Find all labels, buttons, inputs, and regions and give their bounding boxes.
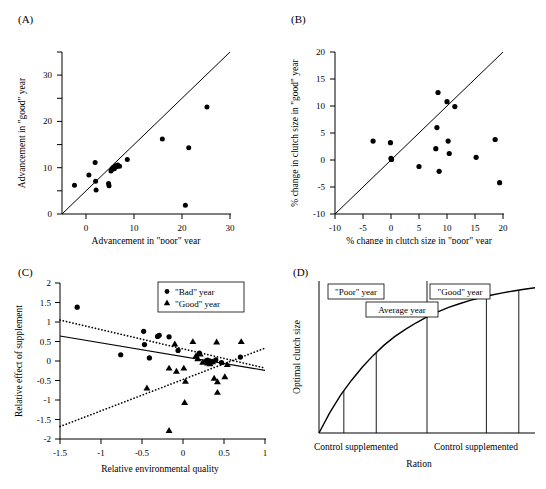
data-point-triangle — [221, 373, 228, 379]
data-point — [416, 164, 421, 169]
data-point — [72, 183, 77, 188]
data-point — [107, 183, 112, 188]
panel-a-identity-line — [62, 52, 230, 214]
fit-line-bad-year — [60, 320, 265, 368]
data-point — [117, 164, 122, 169]
panel-a-ytick-0: 0 — [48, 209, 53, 219]
panel-a-y-axis-title: Advancement in "good" year — [17, 77, 27, 188]
panel-b-y-ticks — [330, 52, 335, 214]
panel-c-ytick--2.0: -2 — [44, 434, 52, 444]
data-point — [493, 137, 498, 142]
panel-d-box-average-label: Average year — [378, 305, 426, 315]
panel-a-ytick-30: 30 — [43, 70, 53, 80]
data-point — [147, 355, 152, 360]
data-point — [175, 348, 180, 353]
data-point — [160, 137, 165, 142]
panel-c-ytick-0.0: 0 — [47, 356, 52, 366]
panel-b-xtick--10: -10 — [329, 223, 341, 233]
data-point-triangle — [180, 365, 187, 371]
fit-line-good-year — [60, 348, 265, 426]
panel-c-ytick-2.0: 2 — [47, 278, 52, 288]
data-point — [370, 139, 375, 144]
panel-a-xtick-0: 0 — [84, 223, 89, 233]
data-point — [447, 151, 452, 156]
panel-d-x-axis-title: Ration — [406, 459, 432, 469]
panel-b-xtick-10: 10 — [443, 223, 453, 233]
data-point — [118, 352, 123, 357]
panel-a-xtick-20: 20 — [178, 223, 188, 233]
data-point-triangle — [143, 385, 150, 391]
panel-c: (C) 2 1.5 1 0.5 0 -0.5 -1 -1.5 — [0, 245, 273, 489]
panel-c-x-axis-title: Relative environmental quality — [101, 464, 219, 474]
panel-d-group-label-right: Control supplemented — [434, 442, 518, 452]
panel-c-xtick-0.5: 0.5 — [218, 448, 230, 458]
panel-b-x-ticks — [335, 214, 503, 219]
panel-a-x-axis-title: Advancement in "poor" year — [92, 236, 202, 244]
panel-c-xtick--1.0: -1 — [97, 448, 105, 458]
panel-c-ytick-1.0: 1 — [47, 317, 52, 327]
data-point-triangle — [166, 427, 173, 433]
data-point — [434, 125, 439, 130]
figure-container: (A) 0 10 20 30 — [0, 0, 546, 489]
panel-c-points — [75, 305, 245, 433]
data-point-triangle — [189, 338, 196, 344]
panel-d: (D) "Poor" year "Good" year Average year… — [273, 245, 546, 489]
data-point-triangle — [166, 365, 173, 371]
panel-b-xtick-0: 0 — [389, 223, 394, 233]
panel-c-xtick--1.5: -1.5 — [53, 448, 68, 458]
panel-c-y-ticks — [55, 283, 60, 439]
panel-b-x-axis-title: % change in clutch size in "poor" year — [346, 236, 493, 244]
panel-b-letter: (B) — [291, 13, 306, 26]
fit-line-overall — [60, 336, 265, 370]
panel-d-box-good-label: "Good" year — [437, 287, 482, 297]
panel-b-xtick-5: 5 — [417, 223, 422, 233]
panel-c-y-axis-title: Relative effect of supplement — [14, 305, 24, 417]
panel-c-x-ticks — [60, 439, 265, 444]
data-point — [93, 179, 98, 184]
panel-c-legend: "Bad" year "Good" year — [158, 282, 244, 312]
data-point-triangle — [173, 368, 180, 374]
data-point — [125, 157, 130, 162]
data-point — [497, 180, 502, 185]
data-point — [388, 140, 393, 145]
panel-c-letter: (C) — [18, 266, 33, 279]
panel-b-ytick-15: 15 — [316, 74, 326, 84]
data-point — [93, 160, 98, 165]
panel-d-box-good: "Good" year — [430, 284, 490, 299]
data-point — [433, 146, 438, 151]
panel-a-xtick-10: 10 — [130, 223, 140, 233]
data-point — [204, 105, 209, 110]
panel-b-xtick-15: 15 — [471, 223, 481, 233]
panel-d-box-poor: "Poor" year — [328, 284, 384, 299]
panel-d-y-axis-title: Optimal clutch size — [292, 320, 302, 394]
data-point — [435, 90, 440, 95]
panel-c-fit-lines — [60, 320, 265, 426]
panel-c-xtick-1.0: 1 — [263, 448, 268, 458]
data-point — [183, 203, 188, 208]
data-point — [75, 305, 80, 310]
panel-a-points — [72, 105, 209, 208]
panel-c-ytick--1.0: -1 — [44, 395, 52, 405]
panel-b-ytick-0: 0 — [321, 155, 326, 165]
panel-c-xtick-0.0: 0 — [181, 448, 186, 458]
data-point — [437, 169, 442, 174]
data-point-triangle — [213, 339, 220, 345]
panel-c-ytick-1.5: 1.5 — [40, 298, 52, 308]
panel-a: (A) 0 10 20 30 — [0, 0, 273, 244]
panel-b: (B) -10 -5 0 5 10 15 20 — [273, 0, 546, 244]
panel-a-ytick-10: 10 — [43, 163, 53, 173]
data-point — [238, 355, 243, 360]
panel-a-ytick-20: 20 — [43, 116, 53, 126]
panel-b-identity-line — [335, 52, 503, 214]
panel-a-xtick-30: 30 — [226, 223, 236, 233]
panel-c-ytick--0.5: -0.5 — [37, 376, 52, 386]
panel-d-box-average: Average year — [366, 302, 438, 317]
panel-d-box-poor-label: "Poor" year — [335, 287, 377, 297]
panel-b-ytick-20: 20 — [316, 47, 326, 57]
panel-a-y-ticks — [57, 52, 62, 214]
panel-c-ytick--1.5: -1.5 — [37, 415, 52, 425]
data-point — [474, 155, 479, 160]
data-point — [86, 173, 91, 178]
legend-circle-icon — [165, 289, 170, 294]
data-point — [446, 139, 451, 144]
